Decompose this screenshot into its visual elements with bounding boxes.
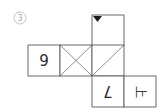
- face-bottom-right: 上: [124, 76, 156, 107]
- face-top: [92, 15, 124, 46]
- face-left-number: 9: [39, 52, 49, 70]
- face-bottom-left: 7: [92, 76, 124, 107]
- label-number: 3: [17, 14, 22, 23]
- face-bottom-left-number: 7: [103, 82, 113, 100]
- face-middle-left: [60, 45, 92, 76]
- face-bottom-right-glyph: 上: [133, 86, 147, 98]
- problem-label: 3: [14, 12, 26, 24]
- face-left: 9: [28, 45, 60, 76]
- face-middle-right: [92, 45, 124, 76]
- cube-net-diagram: 3 9 7 上: [0, 0, 166, 111]
